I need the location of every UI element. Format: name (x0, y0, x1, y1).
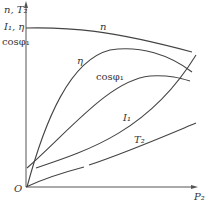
curve-n (26, 28, 192, 52)
curve-eta (27, 49, 192, 187)
label-cosphi1: cosφ₁ (96, 71, 124, 82)
curve-T2-segment-1 (26, 167, 84, 187)
x-axis-arrow-icon (191, 185, 198, 189)
origin-label: O (14, 183, 22, 194)
label-eta: η (77, 55, 83, 66)
y-label-cosphi1: cosφ₁ (2, 36, 30, 47)
y-label-I1-eta: I₁, η (3, 21, 24, 32)
curve-cosphi1 (27, 76, 190, 168)
y-label-n-T2: n, T₂ (4, 4, 27, 15)
performance-characteristics-diagram: n, T₂ I₁, η cosφ₁ O P₂ n η cosφ₁ I₁ T₂ (0, 0, 208, 203)
label-I1: I₁ (122, 112, 131, 123)
label-T2: T₂ (134, 134, 145, 145)
x-label-P2: P₂ (193, 191, 205, 202)
label-n: n (100, 21, 106, 32)
